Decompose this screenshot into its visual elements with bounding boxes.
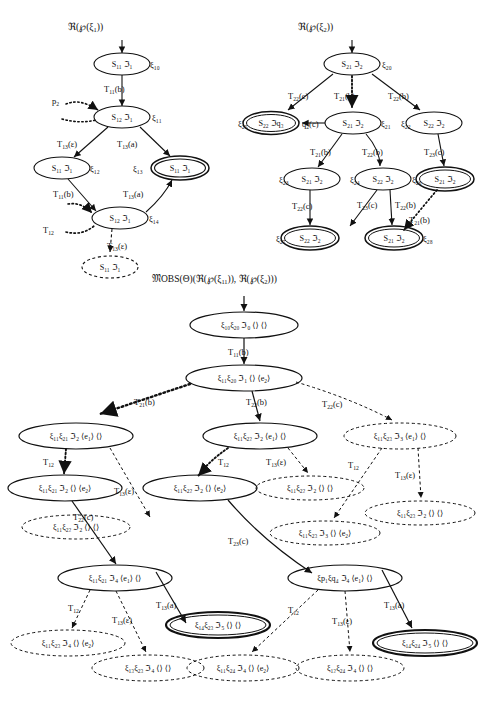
node-label-R6: S21 ℑ2 [435, 174, 456, 184]
node-label-M17: ξ1₂ξ2₄ ℑ4 ⟨⟩ ⟨⟩ [327, 663, 373, 673]
edge-label-M1-M3: T22(b) [246, 398, 267, 407]
node-label-R3: S22 ℑ2 [424, 118, 445, 128]
edge-label-R2-R4: T21(b) [310, 148, 331, 157]
edge-label-M2-M8: T13(ε) [114, 487, 134, 496]
node-side-R2: ξ2₁ [381, 120, 391, 129]
edge-label-M4-M9: T12 [348, 461, 359, 470]
node-side-L1: ξ1₁ [152, 114, 162, 123]
edge-label-L4-L5: T13(ε) [107, 242, 127, 251]
node-label-R5: S22 ℑ2 [373, 174, 394, 184]
node-label-R1: S22 ℑq₃ [258, 118, 283, 128]
node-label-R0: S21 ℑ2 [342, 59, 363, 69]
edge-label-M4-M10: T13(ε) [395, 471, 415, 480]
node-side-L0: ξ1₀ [150, 61, 160, 70]
edge-label-M3-M7: T13(ε) [266, 458, 286, 467]
node-side-R4: ξ2₃ [279, 176, 289, 185]
edge-label-M11-M13: T12 [68, 604, 79, 613]
node-label-M0: ξ1₀ξ2₀ ℑ0 ⟨⟩ ⟨⟩ [221, 320, 267, 330]
node-side-R6: ξ2₆ [412, 176, 422, 185]
edge-label-R2-R5: T22(b) [362, 148, 383, 157]
node-label-M2: ξ1₁ξ2₁ ℑ2 ⟨e1⟩ ⟨⟩ [50, 431, 103, 441]
node-label-M4: ξ1₁ξ2₃ ℑ3 ⟨e1⟩ ⟨⟩ [374, 431, 427, 441]
edge-label-M3-M6: T12 [218, 458, 229, 467]
node-label-R4: S21 ℑ2 [302, 174, 323, 184]
node-label-M12: ξp₁ξq₄ ℑ4 ⟨e1⟩ ⟨⟩ [317, 573, 372, 583]
node-label-M16: ξ1₁ξ2₄ ℑ4 ⟨⟩ ⟨e2⟩ [217, 663, 270, 673]
node-label-M7: ξ1₁ξ2₂ ℑ2 ⟨⟩ ⟨⟩ [287, 483, 333, 493]
node-side-R3: ξ2₂ [401, 120, 411, 129]
tree-right [243, 40, 474, 250]
edge-label-R0-R1: T22(c) [288, 92, 308, 101]
edge-label-R5-R8: T22(b) [395, 201, 416, 210]
node-side-L4: ξ1₄ [149, 215, 159, 224]
edge-p2-L1 [66, 102, 98, 110]
node-label-L1: S12 ℑ1 [112, 112, 133, 122]
node-label-L5: S11 ℑ1 [100, 262, 121, 272]
edge-label-M2-M5: T12 [43, 458, 54, 467]
edge-label-p2: p2 [52, 97, 59, 106]
edge-label-R0-R3: T22(b) [388, 92, 409, 101]
node-label-L3: S11 ℑ1 [170, 163, 191, 173]
node-label-M15: ξ1₄ξ2₃ ℑ5 ⟨⟩ ⟨⟩ [195, 620, 241, 630]
edge-label-M12-M17: T13(ε) [332, 617, 352, 626]
edge-label-L1-L2: T13(ε) [57, 140, 77, 149]
node-label-R2: S21 ℑ2 [343, 118, 364, 128]
edge-label-R2-R1: q2(c) [302, 120, 319, 129]
node-label-M9: ξ1₁ξ2₃ ℑ3 ⟨⟩ ⟨e2⟩ [299, 528, 352, 538]
edge-label-M0-M1: T11(b) [228, 348, 249, 357]
node-label-M8: ξ1₁ξ2₂ ℑ2 ⟨⟩ ⟨⟩ [53, 522, 99, 532]
node-side-L3: ξ1₃ [133, 165, 143, 174]
node-label-M18: ξ1₄ξ2₄ ℑ5 ⟨⟩ ⟨⟩ [402, 638, 448, 648]
edge-label-M12-M18: T13(a) [384, 601, 404, 610]
edge-label-M5-M11: T22(c) [73, 513, 93, 522]
node-side-R8: ξ2₈ [423, 235, 433, 244]
edge-label-M6-M12: T23(c) [228, 537, 248, 546]
node-label-M6: ξ1₁ξ2₂ ℑ2 ⟨⟩ ⟨e2⟩ [174, 483, 227, 493]
node-label-M13: ξ1₁ξ2₃ ℑ4 ⟨⟩ ⟨e2⟩ [42, 638, 95, 648]
edge-label-M12-M16: T12 [288, 606, 299, 615]
edge-label-T12-L4: T12 [43, 226, 54, 235]
node-label-M3: ξ1₁ξ2₂ ℑ2 ⟨e1⟩ ⟨⟩ [234, 431, 287, 441]
edge-label-L0-L1: T11(b) [104, 85, 125, 94]
edge-label-M1-M2: T21(b) [134, 398, 155, 407]
edge-label-M1-M4: T22(c) [322, 400, 342, 409]
edge-label-L2-L4: T11(b) [53, 190, 74, 199]
node-side-R0: ξ2₀ [382, 61, 392, 70]
edge-label-R3-R6: T23(c) [424, 148, 444, 157]
node-side-R1: ξ2₅ [238, 120, 248, 129]
tree-main-title: 𝔐OBS(Θ)(ℜ(℘(ξ11)), ℜ(℘(ξ2))) [152, 273, 277, 285]
node-label-M5: ξ1₁ξ2₁ ℑ2 ⟨⟩ ⟨e2⟩ [39, 483, 92, 493]
node-side-R7: ξ2₇ [276, 235, 286, 244]
edge-label-L1-L3: T13(a) [117, 140, 137, 149]
edge-label-M11-M14: T13(ε) [112, 616, 132, 625]
node-label-L4: S12 ℑ1 [110, 213, 131, 223]
node-side-R5: ξ2₄ [350, 176, 360, 185]
node-label-R7: S22 ℑ2 [300, 233, 321, 243]
node-side-L2: ξ1₂ [90, 165, 100, 174]
node-label-M14: ξ1₃ξ2₃ ℑ4 ⟨⟩ ⟨⟩ [125, 663, 171, 673]
tree-left-title: ℜ(℘(ξ1)) [68, 21, 103, 32]
node-label-L0: S11 ℑ1 [112, 59, 133, 69]
node-label-L2: S11 ℑ1 [52, 163, 73, 173]
edge-label-R4-R7: T22(c) [292, 202, 312, 211]
node-label-M10: ξ1₁ξ2₃ ℑ2 ⟨⟩ ⟨⟩ [397, 508, 443, 518]
node-label-M11: ξ1₁ξ2₁ ℑ4 ⟨e1⟩ ⟨⟩ [89, 573, 142, 583]
edge-label-L4-L3: T13(a) [123, 190, 143, 199]
edge-label-M11-M15: T13(a) [156, 601, 176, 610]
edge-label-R6-R8: T21(b) [409, 216, 430, 225]
node-label-R8: S21 ℑ2 [384, 233, 405, 243]
edge-label-R0-R2: T21(b) [334, 92, 355, 101]
edge-label-R5-R7: T23(c) [357, 201, 377, 210]
edge-p2-tail [62, 119, 96, 122]
node-label-M1: ξ1₁ξ2₀ ℑ1 ⟨⟩ ⟨e2⟩ [218, 373, 271, 383]
tree-right-title: ℜ(℘(ξ2)) [298, 21, 333, 32]
